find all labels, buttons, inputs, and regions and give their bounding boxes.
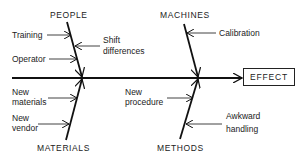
effect-label: EFFECT [250,72,288,82]
fishbone-diagram: PEOPLE MACHINES MATERIALS METHODS Traini… [0,0,303,159]
cause-shift-line1: Shift [103,35,120,45]
cause-operator: Operator [12,54,46,64]
cause-training: Training [12,30,42,40]
cause-awkward-line2: handling [226,124,258,134]
cause-new-materials-line2: materials [12,97,46,107]
cause-shift-line2: differences [103,46,144,56]
methods-bone [180,79,198,139]
cause-new-vendor-line2: vendor [12,123,38,133]
effect-box: EFFECT [243,68,295,86]
materials-bone [66,79,82,140]
cause-new-procedure-line1: New [125,87,142,97]
machines-bone [184,24,198,77]
cause-calibration: Calibration [219,28,260,38]
category-methods-label: METHODS [157,143,204,153]
category-materials-label: MATERIALS [37,143,90,153]
cause-new-vendor-line1: New [12,113,29,123]
cause-new-procedure-line2: procedure [125,97,163,107]
people-bone [67,22,82,77]
category-people-label: PEOPLE [50,10,88,20]
cause-awkward-line1: Awkward [226,111,260,121]
category-machines-label: MACHINES [160,10,210,20]
cause-new-materials-line1: New [12,87,29,97]
